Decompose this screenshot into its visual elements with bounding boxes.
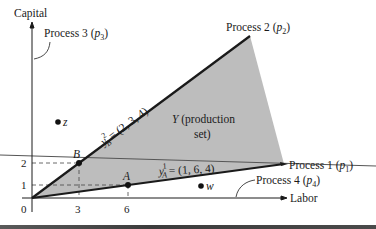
y-tick-1: 1 [21,179,27,191]
point-w-marker [198,183,204,189]
y-tick-2: 2 [21,157,27,169]
point-z-marker [55,119,61,125]
region-label-line1: Y (production [172,113,235,126]
point-a-marker [125,182,131,188]
point-b-marker [76,160,82,166]
x-axis-label: Labor [290,192,318,204]
x-tick-3: 3 [75,203,81,215]
process-1-label: Process 1 (p1) [289,159,353,174]
point-a-label: A [122,170,131,182]
process-4-leader [236,180,255,197]
process-4-label: Process 4 (p4) [256,174,320,189]
process-3-leader [34,42,50,59]
process-1-arrow-icon [280,162,288,166]
x-tick-6: 6 [124,203,130,215]
production-set-diagram: Process 2 (p2) Process 3 (p3) Process 1 … [0,0,376,229]
point-z-label: z [62,116,68,128]
y-axis-label: Capital [14,7,47,20]
point-b-label: B [73,148,80,160]
region-label-line2: set) [194,128,211,141]
bottom-border [0,225,376,229]
y-axis-arrow-icon [30,22,34,28]
process-2-label: Process 2 (p2) [226,21,290,36]
x-axis-arrow-icon [281,196,287,200]
process-3-label: Process 3 (p3) [44,27,108,42]
origin-label: 0 [21,203,27,215]
point-w-label: w [206,180,214,192]
